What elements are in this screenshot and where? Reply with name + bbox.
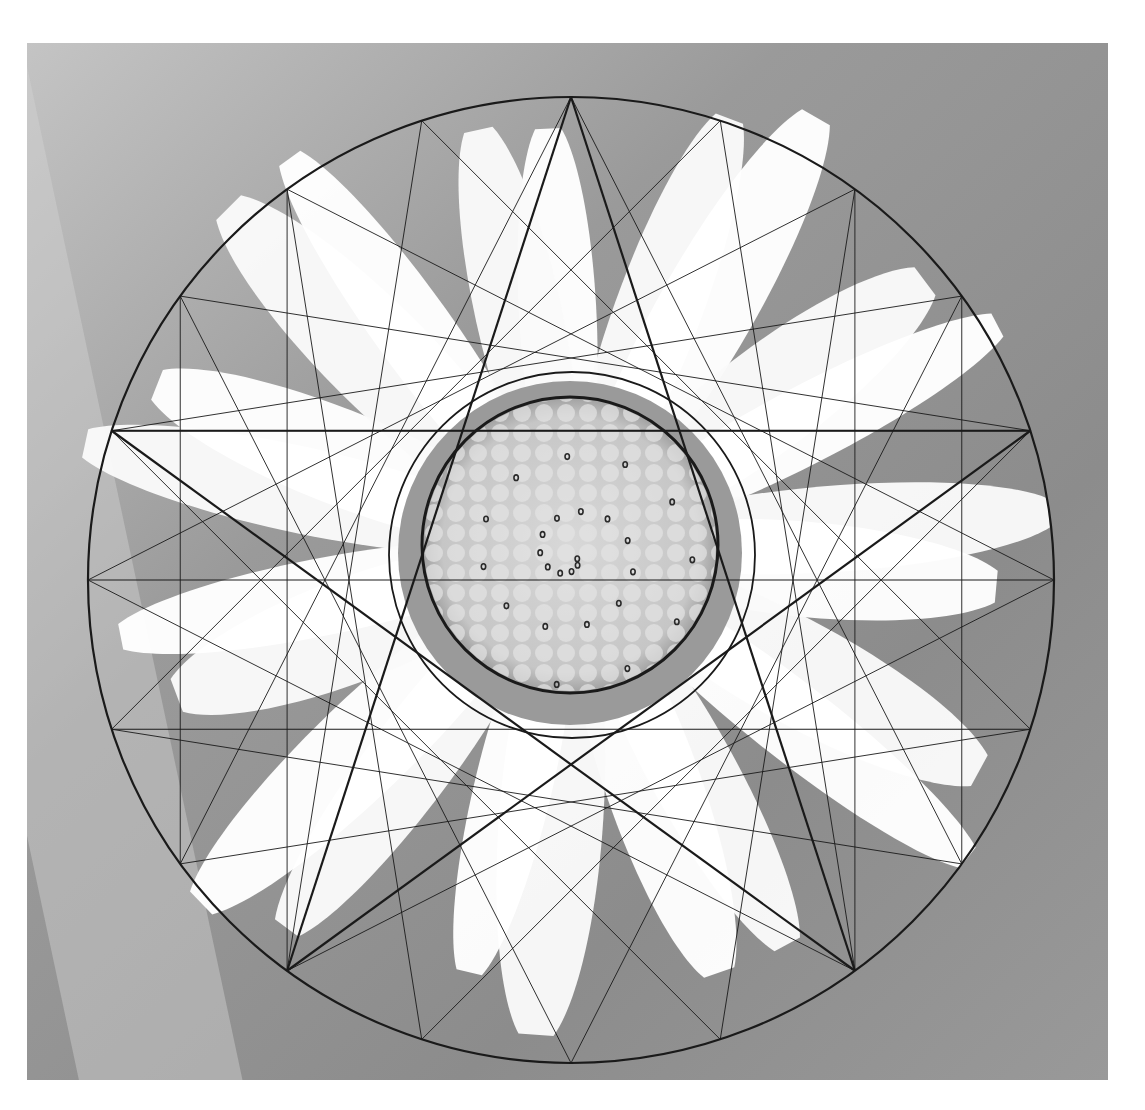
flower-disc-cells	[424, 399, 716, 691]
daisy-geometry-photo	[27, 43, 1108, 1080]
